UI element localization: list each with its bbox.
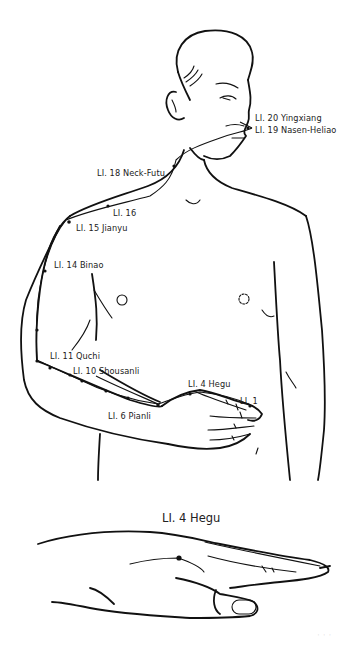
label-li14-binao: LI. 14 Binao (54, 261, 104, 269)
label-li16: LI. 16 (113, 209, 136, 217)
torso-drawing (70, 150, 325, 480)
label-li19-nasen-heliao: LI. 19 Nasen-Heliao (255, 126, 336, 134)
detail-title-li4-hegu: LI. 4 Hegu (162, 513, 220, 525)
label-li20-yingxiang: LI. 20 Yingxiang (255, 114, 322, 122)
footer-mark: · · · (317, 631, 332, 638)
detail-hand-drawing (38, 532, 330, 619)
acupuncture-body-illustration (0, 0, 354, 646)
label-li4-hegu: LI. 4 Hegu (188, 380, 231, 388)
label-li1: LI. 1 (240, 397, 258, 405)
head-drawing (166, 30, 253, 160)
label-li6-pianli: LI. 6 Pianli (108, 412, 151, 420)
label-li11-quchi: LI. 11 Quchi (50, 352, 100, 360)
label-li10-shousanli: LI. 10 Shousanli (73, 367, 139, 375)
label-li15-jianyu: LI. 15 Jianyu (76, 224, 127, 232)
label-li18-neck-futu: LI. 18 Neck-Futu (97, 169, 165, 177)
arm-drawing (21, 216, 168, 444)
